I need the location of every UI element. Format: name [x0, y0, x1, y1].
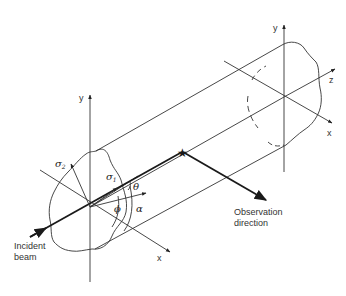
left-axes: y x	[40, 93, 170, 282]
theta-label: θ	[133, 181, 139, 192]
sigma1-label: σ1	[106, 171, 117, 183]
left-x-label: x	[157, 253, 162, 263]
incident-beam-arrowhead	[30, 228, 46, 237]
incident-beam-label-line2: beam	[14, 252, 37, 262]
observation-direction-arrow	[183, 152, 266, 200]
scattering-geometry-diagram: y x y z x ★ σ2 σ1 θ ϕ α Incident beam Ob…	[0, 0, 346, 296]
alpha-label: α	[136, 203, 143, 214]
observation-label-line2: direction	[234, 218, 268, 228]
sigma1-vector	[90, 188, 117, 207]
left-y-label: y	[79, 93, 84, 103]
right-axes: y z x	[224, 23, 335, 172]
right-z-axis	[284, 69, 335, 97]
right-x-label: x	[327, 128, 332, 138]
incident-beam-label-line1: Incident	[14, 241, 46, 251]
right-z-label: z	[329, 75, 334, 85]
phi-label: ϕ	[114, 203, 121, 214]
right-cross-section	[282, 42, 321, 145]
theta-arc	[128, 182, 130, 190]
sigma2-vector	[71, 164, 90, 207]
right-x-axis	[224, 61, 332, 123]
observation-label-line1: Observation	[234, 207, 283, 217]
right-y-label: y	[273, 23, 278, 33]
left-x-axis	[40, 170, 170, 252]
sigma2-label: σ2	[55, 158, 66, 170]
